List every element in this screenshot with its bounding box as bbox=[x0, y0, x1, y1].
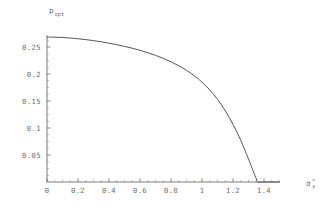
x-tick-label: 1.2 bbox=[226, 186, 240, 195]
x-tick-label: 1 bbox=[200, 186, 205, 195]
y-tick-label: 0.05 bbox=[22, 151, 41, 160]
y-tick-label: 0.1 bbox=[27, 124, 41, 133]
data-series-line bbox=[47, 37, 280, 182]
y-axis-tick-labels: 0.050.10.150.20.25 bbox=[22, 43, 41, 160]
y-tick-label: 0.25 bbox=[22, 43, 41, 52]
y-axis-major-ticks bbox=[47, 47, 51, 155]
x-tick-label: 0.4 bbox=[102, 186, 116, 195]
y-axis-label: p opt bbox=[49, 6, 64, 18]
axes-group bbox=[47, 35, 280, 182]
y-axis-label-subscript: opt bbox=[55, 11, 65, 18]
x-tick-label: 0.2 bbox=[71, 186, 85, 195]
x-axis-tick-labels: 00.20.40.60.811.21.4 bbox=[45, 186, 271, 195]
x-tick-label: 0 bbox=[45, 186, 50, 195]
x-tick-label: 0.6 bbox=[133, 186, 147, 195]
x-axis-label-subscript: f bbox=[312, 184, 315, 190]
chart-figure: 00.20.40.60.811.21.4 0.050.10.150.20.25 … bbox=[0, 0, 332, 215]
y-tick-label: 0.15 bbox=[22, 97, 41, 106]
x-tick-label: 1.4 bbox=[257, 186, 271, 195]
y-tick-label: 0.2 bbox=[27, 70, 41, 79]
chart-canvas: 00.20.40.60.811.21.4 0.050.10.150.20.25 … bbox=[0, 0, 332, 215]
x-axis-label-base: σ bbox=[306, 179, 311, 188]
y-axis-label-base: p bbox=[49, 6, 54, 15]
x-tick-label: 0.8 bbox=[164, 186, 178, 195]
x-axis-label: σ * f bbox=[306, 178, 315, 190]
